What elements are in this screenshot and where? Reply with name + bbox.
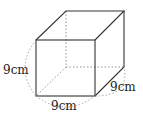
dimension-arcs bbox=[25, 40, 125, 107]
hidden-edge-back-diagonal bbox=[36, 67, 66, 96]
depth-label: 9cm bbox=[110, 80, 136, 94]
width-label: 9cm bbox=[51, 99, 77, 113]
height-label: 9cm bbox=[3, 63, 29, 77]
cube-diagram: 9cm 9cm 9cm bbox=[0, 0, 143, 116]
top-face-edges bbox=[36, 11, 124, 40]
